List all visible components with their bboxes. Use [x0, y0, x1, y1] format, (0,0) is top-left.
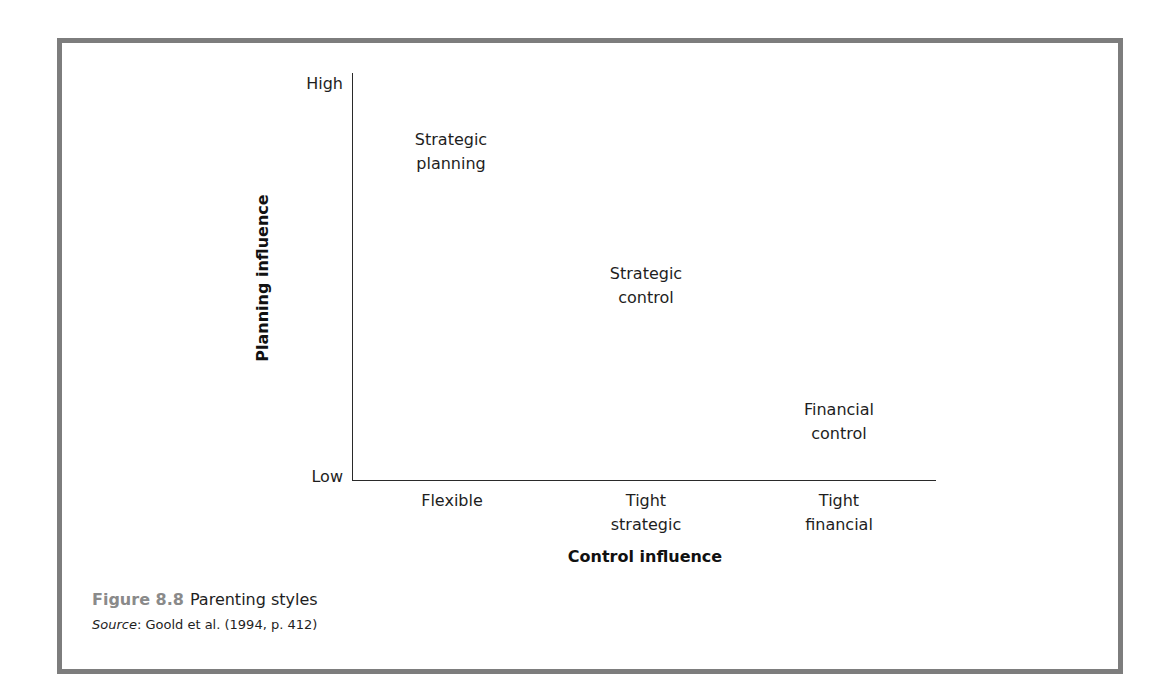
figure-frame	[57, 38, 1123, 674]
region-line1: Strategic	[371, 128, 531, 152]
figure-caption: Figure 8.8Parenting styles	[92, 590, 318, 609]
figure-title: Parenting styles	[190, 590, 318, 609]
region-line2: control	[566, 286, 726, 310]
region-strategic-planning: Strategic planning	[371, 128, 531, 176]
x-category-tight-strategic: Tight strategic	[566, 489, 726, 537]
x-axis-line	[352, 480, 936, 481]
x-category-line2: strategic	[566, 513, 726, 537]
region-financial-control: Financial control	[759, 398, 919, 446]
y-axis-low-label: Low	[283, 467, 343, 486]
region-line1: Strategic	[566, 262, 726, 286]
x-category-line2: financial	[759, 513, 919, 537]
x-category-line1: Flexible	[372, 489, 532, 513]
region-line2: planning	[371, 152, 531, 176]
figure-source: Source: Goold et al. (1994, p. 412)	[92, 617, 317, 632]
x-category-tight-financial: Tight financial	[759, 489, 919, 537]
x-category-line1: Tight	[566, 489, 726, 513]
figure-number: Figure 8.8	[92, 590, 184, 609]
x-axis-title: Control influence	[568, 547, 722, 566]
x-category-flexible: Flexible	[372, 489, 532, 513]
y-axis-line	[352, 73, 353, 481]
y-axis-title: Planning influence	[253, 194, 272, 361]
region-line1: Financial	[759, 398, 919, 422]
source-text: : Goold et al. (1994, p. 412)	[137, 617, 317, 632]
x-category-line1: Tight	[759, 489, 919, 513]
region-line2: control	[759, 422, 919, 446]
source-label: Source	[92, 617, 137, 632]
region-strategic-control: Strategic control	[566, 262, 726, 310]
y-axis-high-label: High	[283, 74, 343, 93]
